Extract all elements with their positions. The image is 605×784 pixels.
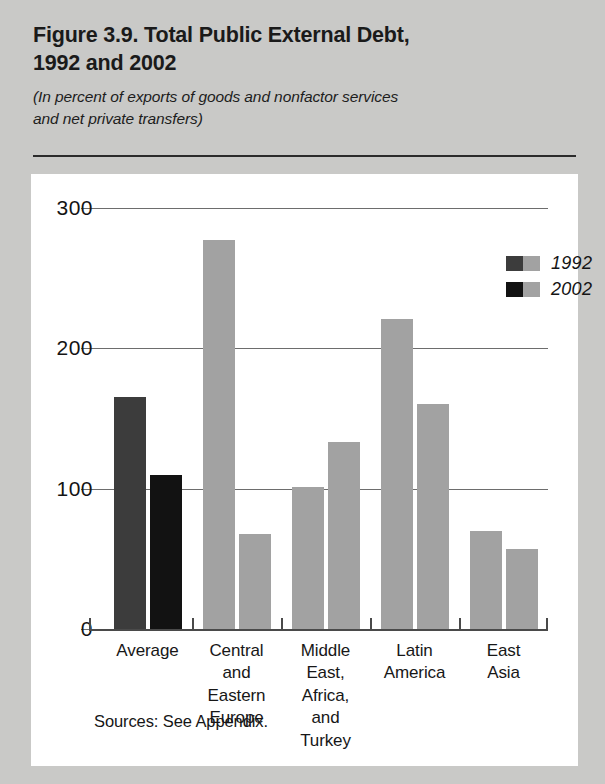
bar-2002-latin-america bbox=[417, 404, 449, 629]
bar-2002-average bbox=[150, 475, 182, 629]
category-label-line: East, bbox=[306, 663, 344, 682]
title-divider bbox=[33, 155, 576, 157]
gridline-200 bbox=[103, 348, 548, 349]
x-axis-label-latin-america: LatinAmerica bbox=[370, 640, 459, 685]
category-label-line: Turkey bbox=[300, 731, 351, 750]
y-tick-label-100: 100 bbox=[56, 477, 93, 501]
bar-1992-east-asia bbox=[470, 531, 502, 629]
category-label-line: Central bbox=[209, 641, 263, 660]
x-axis-separator-1 bbox=[192, 618, 194, 629]
category-label-line: and bbox=[311, 708, 339, 727]
figure-subtitle: (In percent of exports of goods and nonf… bbox=[33, 86, 573, 130]
legend-swatch-2002 bbox=[506, 282, 540, 297]
bar-2002-middle-east-africa-and-turkey bbox=[328, 442, 360, 629]
legend-item-1992: 1992 bbox=[506, 250, 592, 276]
figure-subtitle-line-2: and net private transfers) bbox=[33, 110, 203, 127]
figure-header: Figure 3.9. Total Public External Debt, … bbox=[33, 22, 573, 130]
legend-label-2002: 2002 bbox=[551, 279, 592, 300]
figure-title-line-2: 1992 and 2002 bbox=[33, 51, 176, 75]
x-axis-label-east-asia: EastAsia bbox=[459, 640, 548, 685]
chart-legend: 1992 2002 bbox=[506, 250, 592, 302]
x-axis-label-average: Average bbox=[103, 640, 192, 662]
category-label-line: Middle bbox=[301, 641, 350, 660]
category-label-line: America bbox=[384, 663, 446, 682]
legend-swatch-2002-dark bbox=[506, 282, 523, 297]
bar-1992-middle-east-africa-and-turkey bbox=[292, 487, 324, 629]
x-axis-cap-left bbox=[89, 618, 91, 629]
category-label-line: Eastern bbox=[208, 686, 266, 705]
legend-swatch-2002-light bbox=[523, 282, 540, 297]
category-label-line: Asia bbox=[487, 663, 520, 682]
x-axis-cap-right bbox=[546, 618, 548, 629]
y-tick-label-200: 200 bbox=[56, 336, 93, 360]
x-axis-separator-3 bbox=[370, 618, 372, 629]
category-label-line: Average bbox=[116, 641, 178, 660]
category-label-line: and bbox=[222, 663, 250, 682]
x-axis-baseline bbox=[89, 629, 548, 631]
figure-subtitle-line-1: (In percent of exports of goods and nonf… bbox=[33, 88, 398, 105]
x-axis-separator-4 bbox=[459, 618, 461, 629]
bar-2002-central-and-eastern-europe bbox=[239, 534, 271, 629]
page-title: Figure 3.9. Total Public External Debt, … bbox=[33, 22, 573, 77]
category-label-line: Africa, bbox=[302, 686, 349, 705]
x-axis-separator-2 bbox=[281, 618, 283, 629]
category-label-line: Latin bbox=[396, 641, 432, 660]
legend-swatch-1992-dark bbox=[506, 256, 523, 271]
chart-panel: 0100200300 AverageCentralandEasternEurop… bbox=[31, 174, 578, 766]
bar-chart-plot-area: 0100200300 AverageCentralandEasternEurop… bbox=[103, 208, 548, 629]
figure-title-line-1: Figure 3.9. Total Public External Debt, bbox=[33, 23, 410, 47]
gridline-300 bbox=[103, 208, 548, 209]
bar-1992-latin-america bbox=[381, 319, 413, 629]
legend-label-1992: 1992 bbox=[551, 253, 592, 274]
legend-swatch-1992 bbox=[506, 256, 540, 271]
bar-1992-central-and-eastern-europe bbox=[203, 240, 235, 629]
category-label-line: East bbox=[487, 641, 521, 660]
bar-1992-average bbox=[114, 397, 146, 629]
y-tick-label-300: 300 bbox=[56, 196, 93, 220]
source-note: Sources: See Appendix. bbox=[94, 712, 268, 731]
legend-item-2002: 2002 bbox=[506, 276, 592, 302]
legend-swatch-1992-light bbox=[523, 256, 540, 271]
bar-2002-east-asia bbox=[506, 549, 538, 629]
x-axis-label-middle-east-africa-and-turkey: MiddleEast,Africa,andTurkey bbox=[281, 640, 370, 752]
